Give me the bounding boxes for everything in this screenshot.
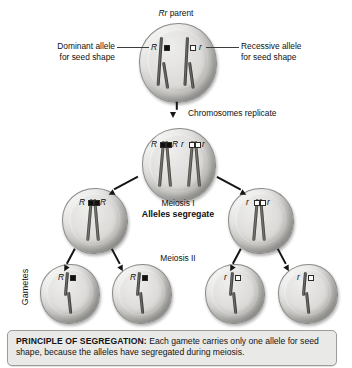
meiosis1-right-allele-2 xyxy=(260,200,266,206)
recessive-allele-callout: Recessive allele for seed shape xyxy=(241,41,341,62)
parent-title-suffix: parent xyxy=(167,8,193,18)
dominant-allele-callout: Dominant allele for seed shape xyxy=(25,41,115,62)
meiosis1-left-allele-2 xyxy=(94,200,100,206)
parent-allele-marker-recessive xyxy=(190,45,196,51)
replicated-letter-recessive-1: r xyxy=(181,139,184,150)
parent-allele-marker-dominant xyxy=(164,45,170,51)
gamete-4-allele-marker xyxy=(308,275,314,281)
meiosis-one-label: Meiosis I xyxy=(140,198,216,209)
gametes-axis-label: Gametes xyxy=(20,259,30,315)
parent-cell xyxy=(139,23,217,103)
dominant-callout-line2: for seed shape xyxy=(60,52,115,62)
caption-heading: PRINCIPLE OF SEGREGATION: xyxy=(16,336,147,346)
dominant-callout-leader xyxy=(117,47,149,48)
parent-allele-letter-recessive: r xyxy=(199,42,202,53)
replicated-letter-recessive-2: r xyxy=(202,139,205,150)
meiosis1-right-letter-1: r xyxy=(246,197,249,208)
principle-of-segregation-caption: PRINCIPLE OF SEGREGATION: Each gamete ca… xyxy=(7,330,337,366)
replicated-allele-dominant-2 xyxy=(166,142,172,148)
gamete-4-allele-letter: r xyxy=(297,272,300,283)
parent-cell-title: Rr parent xyxy=(138,8,214,19)
gamete-2-allele-letter: R xyxy=(130,272,136,283)
parent-allele-letter-dominant: R xyxy=(151,42,157,53)
replicated-allele-recessive-2 xyxy=(195,142,201,148)
gamete-3-allele-letter: r xyxy=(224,272,227,283)
gamete-1-allele-letter: R xyxy=(58,272,64,283)
alleles-segregate-label: Alleles segregate xyxy=(132,209,224,220)
gamete-1-allele-marker xyxy=(70,275,76,281)
dominant-callout-line1: Dominant allele xyxy=(57,41,115,51)
recessive-callout-line2: for seed shape xyxy=(241,52,296,62)
gamete-3-allele-marker xyxy=(235,275,241,281)
recessive-callout-line1: Recessive allele xyxy=(241,41,302,51)
recessive-callout-leader xyxy=(206,47,239,48)
meiosis-two-label: Meiosis II xyxy=(140,253,216,264)
gamete-2-allele-marker xyxy=(142,275,148,281)
chromosomes-replicate-label: Chromosomes replicate xyxy=(188,108,276,119)
meiosis1-right-letter-2: r xyxy=(267,197,270,208)
